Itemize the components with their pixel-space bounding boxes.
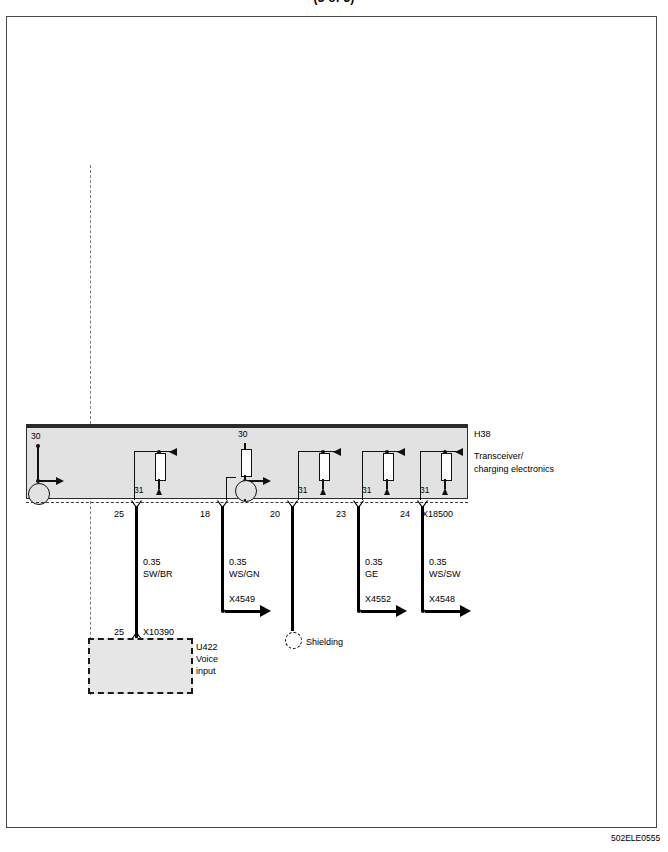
signal-arrow-right-icon xyxy=(263,477,271,485)
connector-arrow-x4549 xyxy=(221,605,271,617)
wire-pin-25 xyxy=(135,506,138,639)
signal-arrow-left-icon xyxy=(455,448,463,456)
arrow-head-icon xyxy=(460,605,471,617)
signal-arrow-left-icon xyxy=(333,448,341,456)
ground-arrow-icon xyxy=(156,488,162,495)
signal-arrow-left-icon xyxy=(169,448,177,456)
resistor-symbol xyxy=(241,449,252,477)
internal-circuit-pin-18: 30 xyxy=(227,425,297,499)
lead-vertical xyxy=(244,499,245,501)
resistor-symbol xyxy=(319,453,330,481)
resistor-symbol xyxy=(383,453,394,481)
arrow-shaft xyxy=(361,610,396,613)
connector-x18500-label: X18500 xyxy=(422,509,453,519)
arrow-head-icon xyxy=(396,605,407,617)
diagram-frame xyxy=(6,16,657,828)
connector-arrow-x4552 xyxy=(357,605,407,617)
wire-size: 0.35 xyxy=(229,556,260,568)
device-id-label: U422 xyxy=(196,641,218,653)
wire-pin-18 xyxy=(221,506,224,611)
transistor-symbol xyxy=(235,480,257,502)
internal-circuit-pin-x18500: 31 xyxy=(415,425,473,499)
page-title: (3 of 3) xyxy=(0,0,668,5)
pin-number-25: 25 xyxy=(100,509,124,519)
wire-color: WS/SW xyxy=(429,568,461,580)
wire-size: 0.35 xyxy=(365,556,383,568)
connector-boundary-line xyxy=(26,502,468,503)
pin-number-24: 24 xyxy=(386,509,410,519)
device-u422-caption: U422 Voice input xyxy=(196,641,218,677)
internal-circuit-pin-23: 31 xyxy=(293,425,351,499)
connector-arrow-x4548 xyxy=(421,605,471,617)
ground-label-31: 31 xyxy=(362,485,371,495)
device-name-line1: Voice xyxy=(196,653,218,665)
signal-arrow-left-icon xyxy=(397,448,405,456)
arrow-shaft xyxy=(225,610,260,613)
signal-arrow-right-icon xyxy=(56,477,64,485)
connector-label-x4548: X4548 xyxy=(429,594,455,604)
device-name-line2: input xyxy=(196,665,218,677)
ground-label-31: 31 xyxy=(134,485,143,495)
shielding-label: Shielding xyxy=(306,637,343,647)
resistor-symbol xyxy=(441,453,452,481)
ground-label-31: 31 xyxy=(298,485,307,495)
arrow-shaft xyxy=(425,610,460,613)
module-name-line2: charging electronics xyxy=(474,463,654,476)
diagram-reference-code: 502ELE0555 xyxy=(611,833,660,843)
internal-circuit-partial-left: 30 xyxy=(27,425,67,499)
wire-color: SW/BR xyxy=(143,568,173,580)
device-pin-number-25: 25 xyxy=(100,627,124,637)
connector-label-x4552: X4552 xyxy=(365,594,391,604)
device-u422-box xyxy=(88,638,193,694)
wire-color: WS/GN xyxy=(229,568,260,580)
pin-number-18: 18 xyxy=(186,509,210,519)
wire-size: 0.35 xyxy=(143,556,173,568)
wire-label-pin-23: 0.35 GE xyxy=(365,556,383,580)
wire-color: GE xyxy=(365,568,383,580)
wire-label-pin-25: 0.35 SW/BR xyxy=(143,556,173,580)
supply-label-30-left: 30 xyxy=(31,431,40,441)
module-id-label: H38 xyxy=(474,428,654,441)
wire-label-pin-24: 0.35 WS/SW xyxy=(429,556,461,580)
module-caption: H38 Transceiver/ charging electronics xyxy=(474,428,654,476)
ground-label-31: 31 xyxy=(420,485,429,495)
ground-arrow-icon xyxy=(384,488,390,495)
module-name-line1: Transceiver/ xyxy=(474,450,654,463)
ground-arrow-icon xyxy=(320,488,326,495)
connector-label-x4549: X4549 xyxy=(229,594,255,604)
pin-number-23: 23 xyxy=(322,509,346,519)
pin-number-20: 20 xyxy=(256,509,280,519)
shielding-symbol-icon xyxy=(285,632,302,649)
ground-arrow-icon xyxy=(442,488,448,495)
wire-label-pin-18: 0.35 WS/GN xyxy=(229,556,260,580)
resistor-symbol xyxy=(155,453,166,481)
wiring-diagram-page: (3 of 3) 30 31 xyxy=(0,0,668,852)
device-connector-x10390-label: X10390 xyxy=(143,627,174,637)
wire-pin-20-shielding xyxy=(291,506,294,631)
lead-vertical xyxy=(226,477,227,500)
internal-circuit-pin-25: 31 xyxy=(129,425,187,499)
arrow-head-icon xyxy=(260,605,271,617)
lead-vertical xyxy=(37,446,38,481)
wire-pin-23 xyxy=(357,506,360,611)
internal-circuit-pin-24: 31 xyxy=(357,425,415,499)
lead-horizontal xyxy=(39,480,57,481)
wire-pin-24 xyxy=(421,506,424,611)
wire-size: 0.35 xyxy=(429,556,461,568)
lead-horizontal xyxy=(226,477,236,478)
module-h38: 30 31 30 xyxy=(26,424,468,499)
supply-label-30-mid: 30 xyxy=(238,429,247,439)
